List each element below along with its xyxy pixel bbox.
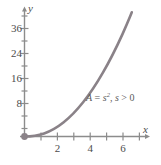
y-tick-label-36: 36: [0, 23, 22, 34]
curve-equation-annotation: A = s2, s > 0: [86, 93, 134, 103]
x-tick-label-6: 6: [115, 143, 131, 154]
origin-point-marker: [21, 133, 28, 140]
y-tick-label-24: 24: [0, 48, 22, 59]
graph-figure: 36 24 16 8 2 4 6 y x A = s2, s > 0: [0, 0, 161, 165]
y-axis-arrow-icon: [22, 7, 27, 12]
annotation-domain-value: 0: [129, 92, 134, 103]
parabola-curve: [25, 12, 132, 136]
plot-canvas: [0, 0, 161, 165]
y-tick-label-16: 16: [0, 73, 22, 84]
x-tick-label-2: 2: [49, 143, 65, 154]
y-axis-label: y: [28, 3, 33, 14]
x-axis-label: x: [143, 124, 148, 135]
y-tick-label-8: 8: [0, 98, 22, 109]
annotation-equals: =: [92, 92, 103, 103]
annotation-domain-relation: >: [119, 92, 130, 103]
x-tick-label-4: 4: [82, 143, 98, 154]
